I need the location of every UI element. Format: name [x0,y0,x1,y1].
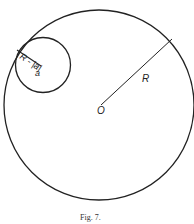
label-a: a [35,68,40,78]
radius-R-line [101,39,172,105]
figure-diagram: R O R - |a| a Fig. 7. [0,0,194,224]
label-R: R [142,73,149,84]
figure-caption: Fig. 7. [80,213,101,222]
label-O: O [97,105,105,116]
